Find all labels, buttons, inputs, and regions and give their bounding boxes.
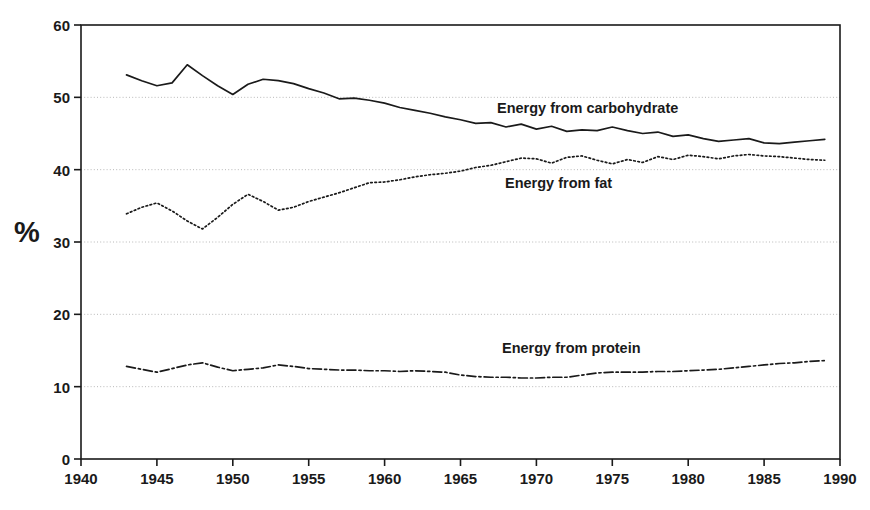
plot-area — [0, 0, 870, 510]
series-label-fat: Energy from fat — [505, 176, 612, 191]
x-tick-label-1945: 1945 — [122, 471, 192, 486]
x-tick-label-1990: 1990 — [805, 471, 870, 486]
series-label-protein: Energy from protein — [502, 341, 641, 356]
series-line-energy-from-fat — [127, 154, 825, 229]
series-line-energy-from-carbohydrate — [127, 65, 825, 144]
series-line-energy-from-protein — [127, 361, 825, 378]
y-tick-label-0: 0 — [26, 452, 70, 467]
y-tick-label-30: 30 — [26, 235, 70, 250]
axis-ticks — [74, 25, 840, 466]
x-tick-label-1965: 1965 — [426, 471, 496, 486]
y-tick-label-50: 50 — [26, 90, 70, 105]
x-tick-label-1975: 1975 — [577, 471, 647, 486]
x-tick-label-1960: 1960 — [350, 471, 420, 486]
x-tick-label-1950: 1950 — [198, 471, 268, 486]
series-label-carbohydrate: Energy from carbohydrate — [497, 101, 678, 116]
x-tick-label-1970: 1970 — [501, 471, 571, 486]
y-tick-label-60: 60 — [26, 18, 70, 33]
chart-figure: % 01020304050601940194519501955196019651… — [0, 0, 870, 510]
plot-frame — [81, 25, 840, 459]
y-tick-label-20: 20 — [26, 307, 70, 322]
x-tick-label-1980: 1980 — [653, 471, 723, 486]
y-tick-label-40: 40 — [26, 163, 70, 178]
x-tick-label-1940: 1940 — [46, 471, 116, 486]
y-tick-label-10: 10 — [26, 380, 70, 395]
data-series — [127, 65, 825, 378]
x-tick-label-1985: 1985 — [729, 471, 799, 486]
x-tick-label-1955: 1955 — [274, 471, 344, 486]
